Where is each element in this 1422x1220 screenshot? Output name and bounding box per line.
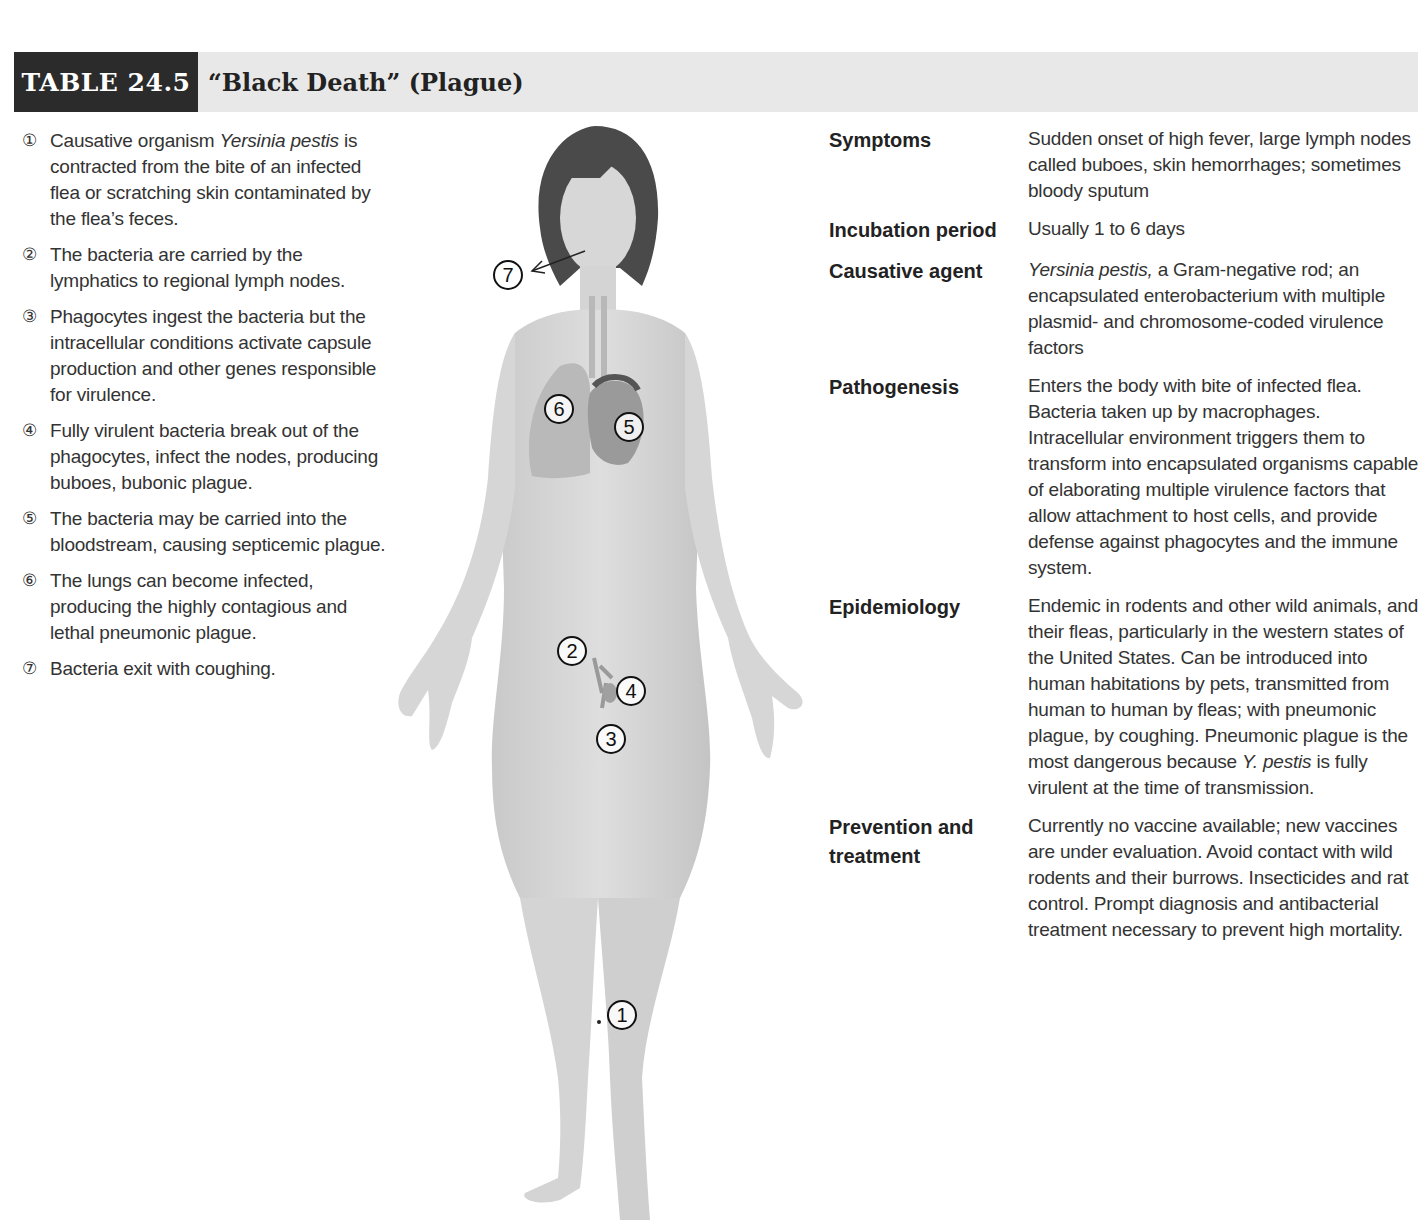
table-number-label: TABLE 24.5 [14, 52, 198, 112]
callout-4: 4 [616, 676, 646, 706]
info-row-pathogenesis: Pathogenesis Enters the body with bite o… [829, 373, 1419, 581]
callout-5: 5 [614, 412, 644, 442]
body-figure-svg [380, 118, 820, 1220]
right-leg-shape [598, 898, 680, 1220]
callout-1: 1 [607, 1000, 637, 1030]
row-term: Incubation period [829, 216, 999, 245]
step-item: ② The bacteria are carried by the lympha… [22, 242, 394, 294]
left-leg-shape [520, 898, 598, 1202]
step-item: ④ Fully virulent bacteria break out of t… [22, 418, 394, 496]
row-term: Prevention and treatment [829, 813, 999, 943]
callout-7: 7 [493, 260, 523, 290]
row-description: Yersinia pestis, a Gram-negative rod; an… [1028, 257, 1419, 361]
step-text: The bacteria are carried by the lymphati… [50, 242, 394, 294]
step-text: The bacteria may be carried into the blo… [50, 506, 394, 558]
flea-bite-dot [597, 1020, 601, 1024]
info-row-prevention: Prevention and treatment Currently no va… [829, 813, 1419, 943]
table-title: “Black Death” (Plague) [208, 52, 524, 112]
row-term: Epidemiology [829, 593, 1028, 801]
step-item: ⑦ Bacteria exit with coughing. [22, 656, 394, 682]
callout-2: 2 [557, 636, 587, 666]
callout-3: 3 [596, 724, 626, 754]
info-row-causative-agent: Causative agent Yersinia pestis, a Gram-… [829, 257, 1419, 361]
step-text: Phagocytes ingest the bacteria but the i… [50, 304, 394, 408]
row-term: Symptoms [829, 126, 1028, 204]
step-number-4-icon: ④ [22, 418, 50, 496]
step-item: ① Causative organism Yersinia pestis is … [22, 128, 394, 232]
step-text: The lungs can become infected, producing… [50, 568, 394, 646]
step-text: Fully virulent bacteria break out of the… [50, 418, 394, 496]
row-description: Sudden onset of high fever, large lymph … [1028, 126, 1419, 204]
neck-shape [580, 266, 616, 316]
info-row-incubation: Incubation period Usually 1 to 6 days [829, 216, 1419, 245]
step-number-7-icon: ⑦ [22, 656, 50, 682]
bubo-shape [603, 683, 617, 703]
step-number-5-icon: ⑤ [22, 506, 50, 558]
row-description: Enters the body with bite of infected fl… [1028, 373, 1419, 581]
step-item: ⑤ The bacteria may be carried into the b… [22, 506, 394, 558]
row-description: Currently no vaccine available; new vacc… [1028, 813, 1419, 943]
step-text: Causative organism Yersinia pestis is co… [50, 128, 394, 232]
infection-steps-list: ① Causative organism Yersinia pestis is … [22, 128, 394, 692]
step-number-3-icon: ③ [22, 304, 50, 408]
row-description: Endemic in rodents and other wild animal… [1028, 593, 1419, 801]
step-number-2-icon: ② [22, 242, 50, 294]
row-term: Pathogenesis [829, 373, 1028, 581]
step-number-1-icon: ① [22, 128, 50, 232]
disease-info-table: Symptoms Sudden onset of high fever, lar… [829, 126, 1419, 955]
step-number-6-icon: ⑥ [22, 568, 50, 646]
info-row-symptoms: Symptoms Sudden onset of high fever, lar… [829, 126, 1419, 204]
human-body-illustration: 1 2 3 4 5 6 7 [380, 118, 820, 1220]
row-term: Causative agent [829, 257, 1028, 361]
callout-6: 6 [544, 394, 574, 424]
info-row-epidemiology: Epidemiology Endemic in rodents and othe… [829, 593, 1419, 801]
row-description: Usually 1 to 6 days [1028, 216, 1419, 245]
step-item: ③ Phagocytes ingest the bacteria but the… [22, 304, 394, 408]
step-item: ⑥ The lungs can become infected, produci… [22, 568, 394, 646]
step-text: Bacteria exit with coughing. [50, 656, 394, 682]
